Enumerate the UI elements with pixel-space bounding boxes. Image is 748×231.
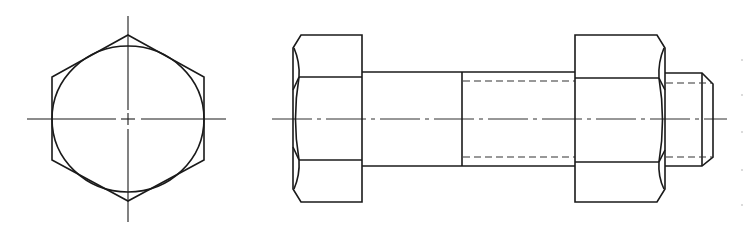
end-view — [27, 16, 226, 222]
thread-end-outline — [665, 73, 713, 166]
technical-drawing: Hex bolt and nut assembly — end view and… — [0, 0, 748, 231]
bolt-head-arc-mid — [296, 77, 300, 160]
bolt-head-outline — [293, 35, 362, 202]
bolt-head — [293, 35, 362, 202]
thread-end — [665, 73, 713, 166]
edge-marks — [741, 59, 743, 206]
nut-arc-mid — [659, 78, 663, 162]
hex-nut — [575, 35, 665, 202]
side-view — [272, 35, 727, 202]
nut-outline — [575, 35, 665, 202]
